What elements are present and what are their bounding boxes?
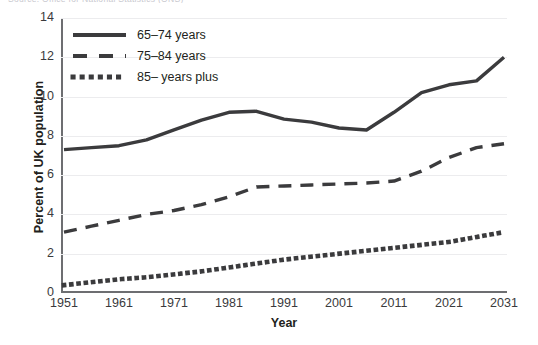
y-tick-label: 10 — [28, 89, 54, 103]
legend-item: 75–84 years — [73, 45, 263, 66]
x-axis-tick-labels: 195119611971198119912001201120212031 — [61, 296, 507, 314]
dashed-line-swatch — [73, 50, 126, 62]
x-tick-label: 2031 — [476, 296, 532, 310]
dotted-line-swatch — [73, 71, 126, 83]
y-tick-label: 2 — [28, 246, 54, 260]
series-line — [64, 232, 504, 285]
x-tick-label: 2011 — [366, 296, 422, 310]
chart-legend: 65–74 years75–84 years85– years plus — [73, 24, 263, 87]
x-tick-label: 1961 — [91, 296, 147, 310]
x-tick-label: 1951 — [36, 296, 92, 310]
legend-label: 65–74 years — [137, 28, 206, 42]
x-tick-label: 1981 — [201, 296, 257, 310]
y-tick-label: 8 — [28, 128, 54, 142]
y-axis-tick-labels: 02468101214 — [28, 0, 54, 345]
solid-line-swatch — [73, 29, 126, 41]
x-tick-label: 2001 — [311, 296, 367, 310]
y-tick-label: 6 — [28, 167, 54, 181]
x-tick-label: 1991 — [256, 296, 312, 310]
legend-label: 75–84 years — [137, 49, 206, 63]
y-tick-label: 12 — [28, 49, 54, 63]
x-axis-title: Year — [61, 316, 507, 330]
x-tick-label: 1971 — [146, 296, 202, 310]
chart-figure: Source: Office for National Statistics (… — [0, 0, 538, 345]
legend-item: 65–74 years — [73, 24, 263, 45]
cropped-caption-text: Source: Office for National Statistics (… — [8, 0, 428, 3]
legend-item: 85– years plus — [73, 66, 263, 87]
legend-label: 85– years plus — [137, 70, 218, 84]
series-line — [64, 144, 504, 232]
y-tick-label: 14 — [28, 10, 54, 24]
y-tick-label: 4 — [28, 206, 54, 220]
x-tick-label: 2021 — [421, 296, 477, 310]
